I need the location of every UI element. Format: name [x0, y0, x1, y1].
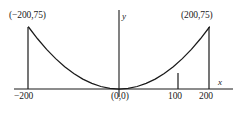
parabola-left-helper — [28, 27, 119, 89]
label-point-right: (200,75) — [181, 11, 213, 21]
parabola-helper — [28, 27, 119, 89]
x-tick-label-neg200: −200 — [14, 92, 33, 102]
y-axis-label: y — [122, 12, 126, 21]
x-tick-label-100: 100 — [168, 92, 182, 102]
parabola-sample-helper — [28, 27, 119, 78]
label-point-origin: (0,0) — [111, 92, 129, 102]
x-tick-label-200: 200 — [199, 92, 213, 102]
parabola-figure: (−200,75) (200,75) (0,0) −200 100 200 x … — [0, 0, 238, 118]
label-point-left: (−200,75) — [9, 11, 46, 21]
x-axis-label: x — [218, 78, 222, 87]
